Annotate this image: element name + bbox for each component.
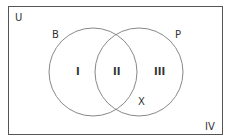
venn-diagram: U B P I II III IV X	[0, 0, 226, 139]
point-x-label: X	[138, 96, 145, 107]
universe-label: U	[15, 12, 22, 23]
region-ii-label: II	[113, 66, 120, 77]
region-iii-label: III	[154, 66, 165, 77]
set-p-label: P	[175, 29, 181, 40]
region-i-label: I	[76, 66, 80, 77]
region-iv-label: IV	[205, 121, 215, 132]
set-b-label: B	[52, 29, 59, 40]
set-b-circle	[49, 28, 137, 116]
